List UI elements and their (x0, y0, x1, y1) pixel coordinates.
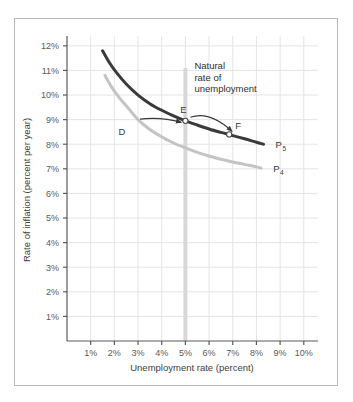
point-label-f: F (235, 120, 241, 131)
y-tick-label: 3% (46, 263, 59, 273)
y-axis-tick-labels: 1%2%3%4%5%6%7%8%9%10%11%12% (41, 41, 59, 322)
natural-rate-annotation-line-2: rate of (194, 72, 221, 83)
data-point-e (183, 118, 188, 123)
x-axis-title: Unemployment rate (percent) (130, 362, 254, 373)
x-tick-label: 10% (295, 348, 313, 358)
point-label-d: D (119, 126, 126, 137)
x-tick-label: 2% (108, 348, 121, 358)
y-tick-label: 11% (42, 66, 59, 76)
y-tick-label: 2% (46, 287, 59, 297)
point-label-e: E (180, 104, 186, 115)
phillips-curve-figure: 1%2%3%4%5%6%7%8%9%10%11%12% 1%2%3%4%5%6%… (0, 0, 353, 402)
x-tick-label: 5% (179, 348, 192, 358)
curve-label-p4: P4 (273, 163, 284, 176)
y-tick-label: 12% (41, 41, 59, 51)
x-tick-label: 6% (203, 348, 216, 358)
x-tick-label: 4% (155, 348, 168, 358)
y-tick-label: 1% (46, 312, 59, 322)
y-axis-title: Rate of inflation (percent per year) (21, 118, 32, 262)
y-tick-label: 8% (46, 140, 59, 150)
x-tick-label: 7% (226, 348, 239, 358)
x-tick-label: 3% (132, 348, 145, 358)
x-tick-label: 1% (84, 348, 97, 358)
chart-canvas: 1%2%3%4%5%6%7%8%9%10%11%12% 1%2%3%4%5%6%… (0, 0, 353, 402)
y-tick-label: 5% (46, 213, 59, 223)
curve-label-subscript: 4 (280, 169, 284, 176)
x-axis-tick-labels: 1%2%3%4%5%6%7%8%9%10% (84, 348, 313, 358)
y-tick-label: 4% (46, 238, 59, 248)
natural-rate-annotation: Naturalrate ofunemployment (194, 60, 257, 94)
y-tick-label: 7% (46, 164, 59, 174)
x-tick-label: 8% (250, 348, 263, 358)
curve-label-p5: P5 (276, 139, 287, 152)
y-tick-label: 6% (46, 189, 59, 199)
curve-label-subscript: 5 (282, 145, 286, 152)
arrow-d-to-e (140, 118, 181, 122)
natural-rate-annotation-line-3: unemployment (194, 83, 257, 94)
data-point-f (227, 132, 232, 137)
y-tick-label: 9% (46, 115, 59, 125)
y-tick-label: 10% (41, 90, 59, 100)
x-tick-label: 9% (274, 348, 287, 358)
natural-rate-annotation-line-1: Natural (194, 60, 225, 71)
